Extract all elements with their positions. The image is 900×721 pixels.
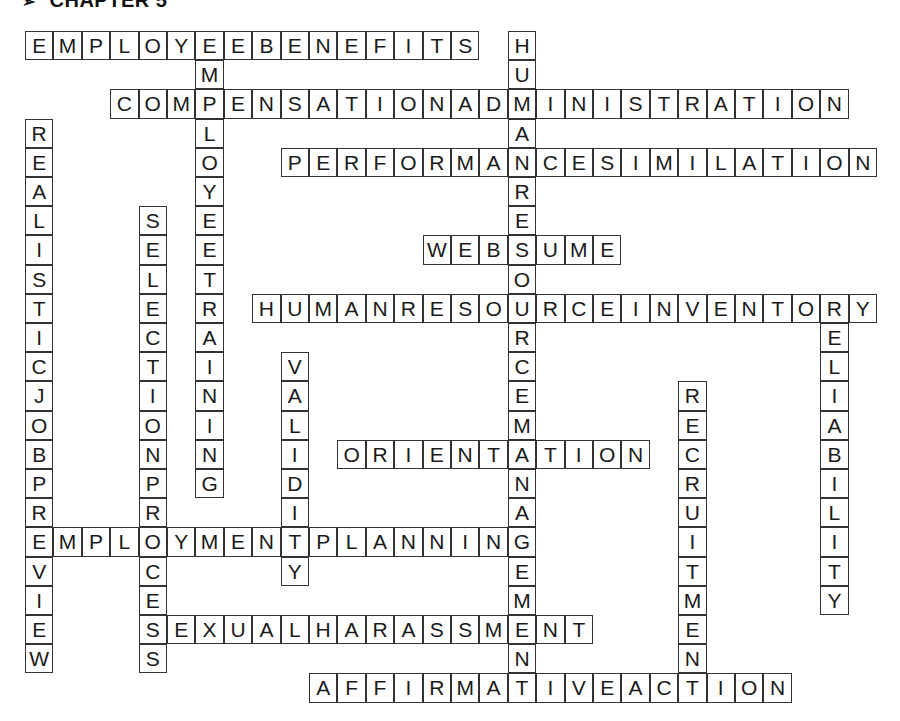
- crossword-cell: P: [281, 148, 309, 177]
- crossword-cell: V: [281, 352, 309, 381]
- crossword-cell: I: [621, 148, 649, 177]
- crossword-cell: E: [25, 148, 53, 177]
- crossword-cell: N: [650, 294, 678, 323]
- crossword-cell: M: [508, 586, 536, 615]
- crossword-cell: L: [707, 148, 735, 177]
- crossword-cell: C: [678, 440, 706, 469]
- crossword-cell: O: [792, 89, 820, 118]
- crossword-cell: S: [451, 294, 479, 323]
- crossword-cell: E: [423, 294, 451, 323]
- crossword-cell: D: [479, 89, 507, 118]
- crossword-cell: A: [508, 498, 536, 527]
- crossword-cell: T: [820, 557, 848, 586]
- crossword-cell: L: [281, 615, 309, 644]
- crossword-cell: O: [394, 89, 422, 118]
- crossword-cell: R: [139, 498, 167, 527]
- crossword-cell: C: [139, 323, 167, 352]
- crossword-cell: V: [565, 673, 593, 702]
- crossword-cell: A: [479, 673, 507, 702]
- crossword-cell: L: [139, 265, 167, 294]
- crossword-cell: E: [224, 31, 252, 60]
- crossword-cell: O: [479, 294, 507, 323]
- crossword-cell: E: [25, 615, 53, 644]
- crossword-cell: I: [195, 352, 223, 381]
- crossword-cell: E: [309, 148, 337, 177]
- crossword-cell: E: [224, 89, 252, 118]
- crossword-cell: S: [139, 644, 167, 673]
- crossword-cell: R: [394, 294, 422, 323]
- crossword-cell: S: [508, 235, 536, 264]
- crossword-cell: L: [820, 352, 848, 381]
- crossword-cell: N: [536, 615, 564, 644]
- crossword-cell: B: [25, 440, 53, 469]
- crossword-cell: M: [479, 615, 507, 644]
- crossword-cell: O: [792, 294, 820, 323]
- crossword-cell: S: [139, 615, 167, 644]
- crossword-cell: T: [337, 89, 365, 118]
- crossword-cell: Y: [849, 294, 877, 323]
- crossword-cell: T: [678, 673, 706, 702]
- crossword-cell: N: [763, 673, 791, 702]
- crossword-cell: A: [195, 323, 223, 352]
- crossword-cell: N: [252, 527, 280, 556]
- crossword-cell: E: [565, 148, 593, 177]
- crossword-cell: M: [167, 89, 195, 118]
- crossword-cell: P: [82, 31, 110, 60]
- crossword-cell: O: [139, 527, 167, 556]
- crossword-cell: M: [508, 411, 536, 440]
- crossword-cell: E: [508, 615, 536, 644]
- crossword-cell: I: [678, 148, 706, 177]
- crossword-cell: I: [139, 381, 167, 410]
- crossword-cell: O: [337, 440, 365, 469]
- crossword-cell: I: [451, 527, 479, 556]
- crossword-cell: S: [593, 148, 621, 177]
- crossword-cell: W: [25, 644, 53, 673]
- crossword-cell: I: [565, 440, 593, 469]
- crossword-cell: A: [252, 615, 280, 644]
- crossword-cell: C: [565, 294, 593, 323]
- crossword-cell: A: [508, 440, 536, 469]
- crossword-cell: P: [309, 527, 337, 556]
- crossword-cell: T: [763, 294, 791, 323]
- crossword-cell: F: [366, 148, 394, 177]
- crossword-cell: A: [337, 294, 365, 323]
- crossword-cell: O: [394, 148, 422, 177]
- crossword-cell: N: [735, 294, 763, 323]
- crossword-cell: M: [195, 527, 223, 556]
- crossword-cell: O: [139, 89, 167, 118]
- crossword-cell: N: [849, 148, 877, 177]
- crossword-cell: B: [820, 440, 848, 469]
- crossword-cell: N: [252, 89, 280, 118]
- crossword-cell: F: [337, 673, 365, 702]
- crossword-cell: O: [508, 265, 536, 294]
- crossword-cell: A: [366, 527, 394, 556]
- crossword-cell: T: [423, 31, 451, 60]
- crossword-cell: E: [25, 527, 53, 556]
- crossword-cell: T: [735, 89, 763, 118]
- crossword-cell: T: [479, 440, 507, 469]
- crossword-cell: R: [678, 89, 706, 118]
- crossword-cell: N: [195, 440, 223, 469]
- crossword-cell: M: [451, 673, 479, 702]
- crossword-cell: R: [423, 148, 451, 177]
- crossword-cell: P: [25, 469, 53, 498]
- crossword-cell: N: [508, 469, 536, 498]
- crossword-grid: EMPLOYEEBENEFITSHUMANRESOURCEMANAGEMENTM…: [0, 0, 900, 721]
- crossword-cell: P: [195, 89, 223, 118]
- crossword-cell: Y: [167, 527, 195, 556]
- crossword-cell: A: [508, 119, 536, 148]
- crossword-cell: L: [820, 498, 848, 527]
- crossword-cell: T: [139, 352, 167, 381]
- crossword-cell: T: [678, 557, 706, 586]
- crossword-cell: E: [139, 294, 167, 323]
- crossword-cell: N: [479, 527, 507, 556]
- crossword-cell: R: [536, 294, 564, 323]
- crossword-cell: J: [25, 381, 53, 410]
- crossword-cell: A: [309, 673, 337, 702]
- crossword-cell: G: [508, 527, 536, 556]
- crossword-cell: T: [565, 615, 593, 644]
- crossword-cell: S: [621, 89, 649, 118]
- crossword-cell: I: [593, 89, 621, 118]
- crossword-cell: I: [281, 498, 309, 527]
- crossword-cell: N: [565, 89, 593, 118]
